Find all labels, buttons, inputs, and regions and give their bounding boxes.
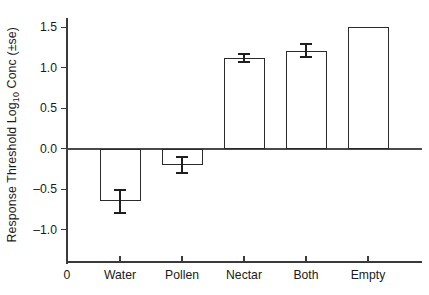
y-axis-tick — [61, 189, 67, 190]
bar-chart-figure: Response Threshold Log10 Conc (±se) 1.51… — [0, 0, 429, 295]
y-axis-tick-label: 1.0 — [17, 61, 57, 75]
y-axis-tick-label: 0.0 — [17, 142, 57, 156]
x-axis-tick-label-both: Both — [293, 268, 318, 282]
x-axis-origin-tick — [66, 256, 67, 262]
y-axis-tick — [61, 67, 67, 68]
x-axis-tick-label-nectar: Nectar — [226, 268, 262, 282]
x-axis-tick — [181, 256, 182, 262]
y-axis-tick — [61, 148, 67, 149]
x-axis-tick — [243, 256, 244, 262]
bar-nectar — [224, 58, 265, 149]
x-axis-origin-label: 0 — [64, 268, 71, 282]
x-axis-tick — [367, 256, 368, 262]
x-axis-tick — [305, 256, 306, 262]
error-bar-water — [119, 190, 121, 213]
error-bar-cap-lower — [300, 56, 312, 58]
y-axis-tick — [61, 108, 67, 109]
error-bar-cap-lower — [238, 61, 250, 63]
error-bar-pollen — [181, 157, 183, 173]
bar-empty — [348, 27, 389, 149]
error-bar-cap-upper — [238, 53, 250, 55]
y-axis-label-pre: Response Threshold Log — [5, 102, 19, 242]
y-axis-tick-label: –0.5 — [17, 182, 57, 196]
y-axis-line — [66, 18, 68, 264]
x-axis-tick-label-empty: Empty — [351, 268, 386, 282]
x-axis-tick-label-water: Water — [104, 268, 136, 282]
y-axis-label-post: Conc (±se) — [5, 27, 19, 92]
error-bar-cap-lower — [176, 172, 188, 174]
error-bar-cap-upper — [300, 43, 312, 45]
y-axis-label: Response Threshold Log10 Conc (±se) — [5, 27, 21, 243]
bar-both — [286, 51, 327, 149]
error-bar-both — [305, 44, 307, 57]
y-axis-tick — [61, 229, 67, 230]
y-axis-tick-label: 0.5 — [17, 101, 57, 115]
y-axis-tick-label: 1.5 — [17, 20, 57, 34]
y-axis-tick-label: –1.0 — [17, 223, 57, 237]
error-bar-cap-upper — [114, 189, 126, 191]
error-bar-cap-upper — [176, 156, 188, 158]
x-axis-tick-label-pollen: Pollen — [165, 268, 199, 282]
error-bar-cap-lower — [114, 212, 126, 214]
y-axis-tick — [61, 27, 67, 28]
x-axis-tick — [119, 256, 120, 262]
